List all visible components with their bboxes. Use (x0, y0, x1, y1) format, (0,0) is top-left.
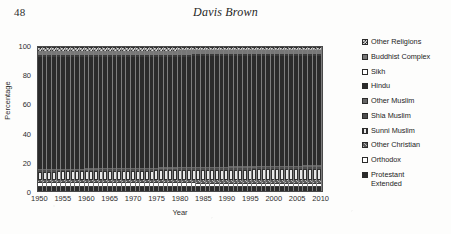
bar-segment (262, 56, 266, 166)
bar-segment (238, 56, 242, 166)
legend-item: Sikh (362, 68, 450, 77)
bar-segment (47, 172, 51, 180)
bar-segment (238, 170, 242, 180)
legend-item: Protestant Extended (362, 171, 450, 188)
x-axis-tick: 1990 (219, 194, 236, 203)
bar-segment (224, 56, 228, 166)
bar-segment (234, 56, 238, 166)
bar-segment (308, 169, 312, 180)
x-axis-tick: 1960 (78, 194, 95, 203)
bar-segment (215, 187, 219, 191)
y-axis-tick-labels: 020406080100 (8, 46, 34, 192)
bar-segment (57, 171, 61, 179)
bar-segment (80, 187, 84, 191)
bar-segment (248, 56, 252, 166)
bar-segment (317, 56, 321, 166)
bar-segment (136, 187, 140, 191)
bar-segment (262, 169, 266, 180)
bar-segment (43, 172, 47, 180)
legend-item: Other Religions (362, 38, 450, 47)
bar-segment (61, 187, 65, 191)
bar-segment (280, 169, 284, 180)
bar-segment (126, 57, 130, 168)
stacked-bar-chart: Percentage 020406080100 1950195519601965… (0, 30, 451, 234)
bar-segment (140, 171, 144, 180)
legend-item: Shia Muslim (362, 112, 450, 121)
bar-segment (178, 170, 182, 180)
bar-segment (215, 170, 219, 180)
bar-segment (192, 170, 196, 180)
bar-segment (66, 57, 70, 169)
bar-segment (75, 57, 79, 168)
bar-segment (168, 187, 172, 191)
bar-segment (262, 187, 266, 191)
bar-segment (182, 170, 186, 180)
bar-segment (145, 57, 149, 168)
legend-label: Sunni Muslim (371, 127, 415, 136)
legend-item: Hindu (362, 82, 450, 91)
bar-segment (89, 187, 93, 191)
bar-segment (243, 170, 247, 181)
chart-legend: Other ReligionsBuddhist ComplexSikhHindu… (362, 38, 450, 194)
bar-segment (159, 187, 163, 191)
bar-segment (215, 56, 219, 166)
legend-label: Protestant Extended (371, 171, 404, 188)
bar-segment (192, 187, 196, 191)
legend-swatch-icon (362, 98, 368, 104)
bar-segment (308, 56, 312, 166)
bar-segment (94, 171, 98, 180)
bar-segment (103, 187, 107, 191)
bar-segment (178, 187, 182, 191)
legend-label: Hindu (371, 82, 390, 91)
legend-label: Sikh (371, 68, 385, 77)
bar-segment (117, 171, 121, 180)
bar-segment (150, 171, 154, 180)
bar-segment (94, 187, 98, 191)
bar-segment (178, 57, 182, 168)
bar-segment (317, 169, 321, 180)
y-axis-tick: 80 (23, 71, 31, 80)
bar-segment (43, 187, 47, 191)
legend-item: Sunni Muslim (362, 127, 450, 136)
bar-segment (52, 187, 56, 191)
bar-segment (113, 171, 117, 180)
legend-item: Buddhist Complex (362, 53, 450, 62)
bar-segment (234, 187, 238, 191)
bar-segment (294, 187, 298, 191)
bar-segment (252, 169, 256, 180)
bar-segment (103, 57, 107, 168)
x-axis-tick: 1950 (31, 194, 48, 203)
bar-segment (89, 171, 93, 180)
bar-segment (136, 171, 140, 180)
bar-segment (61, 57, 65, 168)
legend-label: Buddhist Complex (371, 53, 430, 62)
x-axis-tick: 2005 (289, 194, 306, 203)
legend-label: Orthodox (371, 156, 401, 165)
y-axis-tick: 100 (18, 42, 31, 51)
bar-segment (131, 57, 135, 168)
bar-segment (257, 169, 261, 180)
bar-segment (266, 187, 270, 191)
bar-segment (313, 187, 317, 191)
bar-segment (289, 187, 293, 191)
bar-segment (89, 57, 93, 168)
bar-segment (224, 187, 228, 191)
x-axis-tick: 1975 (148, 194, 165, 203)
bar-segment (192, 56, 196, 167)
bar-segment (229, 187, 233, 191)
bar-segment (173, 187, 177, 191)
x-axis-title: Year (37, 208, 323, 217)
plot-area (37, 46, 323, 192)
bar-segment (206, 170, 210, 180)
bar-segment (57, 57, 61, 169)
bar-segment (271, 187, 275, 191)
bar-segment (313, 56, 317, 166)
bar-segment (210, 56, 214, 166)
bar-segment (43, 57, 47, 169)
bar-segment (113, 187, 117, 191)
bar-segment (201, 170, 205, 180)
bar-segment (210, 187, 214, 191)
bar-segment (299, 56, 303, 166)
y-axis-tick: 40 (23, 129, 31, 138)
bar-segment (117, 187, 121, 191)
